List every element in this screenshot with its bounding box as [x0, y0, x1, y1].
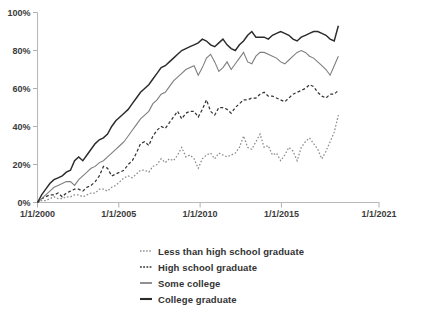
series-line-0	[38, 115, 339, 202]
series-line-1	[38, 85, 339, 203]
series-group	[38, 26, 339, 203]
axis-lines	[38, 13, 380, 203]
solid-dark-line-marker	[140, 294, 152, 304]
x-axis-tick-label: 1/1/2010	[183, 209, 218, 219]
legend-item-label: High school graduate	[158, 262, 257, 273]
y-axis-tick-label: 80%	[12, 46, 30, 56]
solid-gray-line-marker	[140, 278, 152, 288]
y-axis-tick-group: 0%20%40%60%80%100%	[7, 8, 37, 208]
x-axis-tick-label: 1/1/2015	[264, 209, 299, 219]
x-axis-tick-group: 1/1/20001/1/20051/1/20101/1/20151/1/2021	[20, 203, 397, 220]
y-axis-tick-label: 60%	[12, 84, 30, 94]
chart-container: 0%20%40%60%80%100% 1/1/20001/1/20051/1/2…	[0, 0, 427, 318]
dashed-line-marker	[140, 262, 152, 272]
legend-item-label: Less than high school graduate	[158, 246, 304, 257]
x-axis-tick-label: 1/1/2021	[361, 209, 396, 219]
dotted-line-marker	[140, 246, 152, 256]
legend-item-label: College graduate	[158, 294, 237, 305]
y-axis-tick-label: 100%	[7, 8, 30, 18]
x-axis-tick-label: 1/1/2005	[101, 209, 136, 219]
series-line-2	[38, 51, 339, 203]
x-axis-tick-label: 1/1/2000	[20, 209, 55, 219]
y-axis-tick-label: 20%	[12, 160, 30, 170]
y-axis-tick-label: 40%	[12, 122, 30, 132]
chart-legend: Less than high school graduate High scho…	[140, 243, 380, 307]
y-axis-tick-label: 0%	[17, 198, 30, 208]
legend-item-some-college[interactable]: Some college	[140, 275, 380, 291]
legend-item-high-school-graduate[interactable]: High school graduate	[140, 259, 380, 275]
legend-item-label: Some college	[158, 278, 220, 289]
legend-item-less-than-high-school[interactable]: Less than high school graduate	[140, 243, 380, 259]
legend-item-college-graduate[interactable]: College graduate	[140, 291, 380, 307]
